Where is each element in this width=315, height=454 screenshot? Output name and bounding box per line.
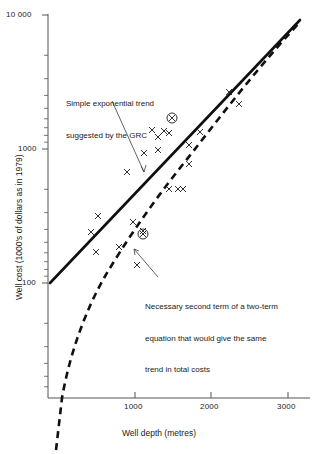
annotation-second-line-3: trend in total costs	[145, 365, 278, 376]
data-point	[116, 244, 122, 250]
data-point	[166, 186, 172, 192]
leader-line-second-term	[134, 249, 158, 277]
x-tick-label-3000: 3000	[277, 402, 296, 411]
y-tick-label-100: 100	[22, 278, 36, 287]
annotation-second-line-2: equation that would give the same	[145, 334, 278, 345]
data-point	[166, 130, 172, 136]
y-tick-label-10000: 10 000	[6, 10, 32, 19]
data-point	[180, 186, 186, 192]
data-point	[134, 262, 140, 268]
data-point	[88, 229, 94, 235]
data-point	[161, 128, 167, 134]
y-tick-label-1000: 1000	[18, 144, 37, 153]
data-point	[186, 161, 192, 167]
y-axis-minor-ticks	[44, 55, 48, 387]
annotation-trend-line-2: suggested by the GRC	[66, 131, 154, 142]
data-point	[197, 129, 203, 135]
annotation-second-line-1: Necessary second term of a two-term	[145, 302, 278, 313]
data-point	[236, 101, 242, 107]
chart-figure: 10 000 1000 100 1000 2000 3000 Well cost…	[0, 0, 315, 454]
data-point	[130, 219, 136, 225]
data-point	[175, 186, 181, 192]
data-point	[186, 142, 192, 148]
y-axis-title: Well cost (1000's of dollars as in 1979)	[14, 154, 24, 300]
data-point	[93, 249, 99, 255]
annotation-trend-line-1: Simple exponential trend	[66, 99, 154, 110]
data-point	[95, 213, 101, 219]
x-axis-title: Well depth (metres)	[122, 428, 196, 438]
circled-data-point	[167, 113, 177, 123]
annotation-second-term: Necessary second term of a two-term equa…	[145, 281, 278, 397]
annotation-simple-exponential-trend: Simple exponential trend suggested by th…	[66, 78, 154, 162]
data-point	[124, 169, 130, 175]
data-point	[155, 134, 161, 140]
x-tick-label-2000: 2000	[200, 402, 219, 411]
data-point	[155, 147, 161, 153]
x-tick-label-1000: 1000	[124, 402, 143, 411]
